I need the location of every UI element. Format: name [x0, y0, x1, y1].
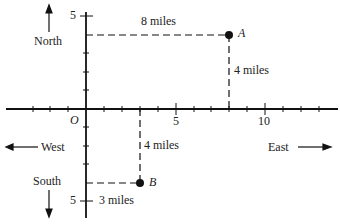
point-b — [136, 179, 144, 187]
east-label: East — [268, 140, 289, 155]
y-tick-label-5-bottom: 5 — [70, 193, 76, 208]
x-tick-label-10: 10 — [258, 114, 270, 129]
west-label: West — [41, 140, 65, 155]
east-arrowhead-icon — [323, 144, 331, 150]
north-arrowhead-icon — [46, 5, 52, 13]
point-a — [225, 31, 233, 39]
south-arrowhead-icon — [46, 209, 52, 217]
west-arrowhead-icon — [6, 144, 13, 150]
b-vertical-distance: 4 miles — [144, 138, 179, 153]
x-tick-label-5: 5 — [173, 114, 179, 129]
point-b-label: B — [149, 175, 156, 190]
b-horizontal-distance: 3 miles — [99, 193, 134, 208]
origin-label: O — [70, 113, 79, 128]
a-horizontal-distance: 8 miles — [141, 14, 176, 29]
south-label: South — [33, 174, 61, 189]
north-label: North — [34, 34, 62, 49]
y-tick-label-5-top: 5 — [70, 8, 76, 23]
point-a-label: A — [238, 26, 245, 41]
a-vertical-distance: 4 miles — [234, 63, 269, 78]
